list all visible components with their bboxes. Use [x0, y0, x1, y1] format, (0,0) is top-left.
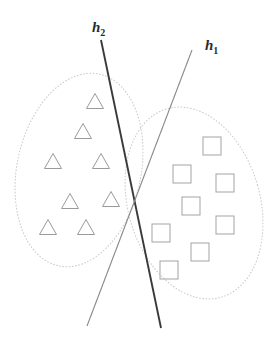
label-h2: h2: [92, 19, 105, 38]
triangle-marker: [93, 154, 110, 169]
triangle-marker: [45, 154, 62, 169]
square-marker: [216, 174, 234, 192]
square-marker: [216, 216, 234, 234]
triangle-marker: [87, 94, 104, 109]
triangle-marker: [103, 192, 120, 207]
label-h2-base: h: [92, 19, 100, 35]
square-marker: [203, 137, 221, 155]
triangle-marker: [78, 220, 95, 235]
figure-canvas: h2 h1: [0, 0, 266, 341]
triangle-markers-group: [40, 94, 120, 235]
square-marker: [182, 197, 200, 215]
square-marker: [191, 243, 209, 261]
square-marker: [152, 224, 170, 242]
triangle-marker: [62, 194, 79, 209]
triangle-marker: [40, 220, 57, 235]
triangle-marker: [75, 124, 92, 139]
label-h2-subscript: 2: [100, 27, 105, 38]
square-marker: [173, 165, 191, 183]
square-markers-group: [152, 137, 234, 279]
boundary-labels-group: h2 h1: [92, 19, 218, 56]
hypothesis-separation-diagram: h2 h1: [0, 0, 266, 341]
decision-boundary-h1: [87, 50, 192, 326]
label-h1: h1: [205, 37, 218, 56]
square-cluster-ellipse: [104, 91, 266, 316]
label-h1-base: h: [205, 37, 213, 53]
cluster-ellipses: [0, 61, 266, 315]
square-marker: [160, 261, 178, 279]
triangle-cluster-ellipse: [0, 61, 160, 278]
label-h1-subscript: 1: [213, 45, 218, 56]
decision-boundary-h2: [101, 40, 161, 328]
